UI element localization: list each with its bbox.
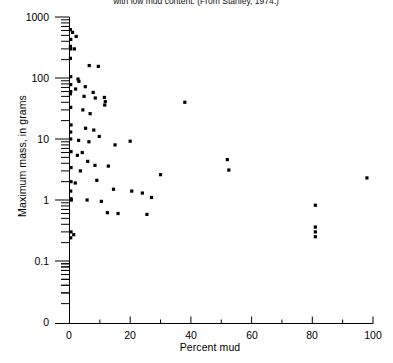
- data-point: [97, 65, 100, 68]
- data-point: [226, 158, 229, 161]
- data-point: [69, 230, 72, 233]
- data-point: [69, 180, 72, 183]
- data-point: [159, 173, 162, 176]
- plot-canvas: [0, 0, 393, 363]
- data-point: [72, 233, 75, 236]
- data-point: [69, 166, 72, 169]
- data-point: [89, 112, 92, 115]
- data-point: [69, 57, 72, 60]
- data-point: [106, 211, 109, 214]
- data-point: [103, 103, 106, 106]
- data-point: [69, 106, 72, 109]
- data-point-group: [69, 28, 369, 239]
- data-point: [86, 198, 89, 201]
- data-point: [92, 128, 95, 131]
- data-point: [75, 35, 78, 38]
- data-point: [81, 108, 84, 111]
- data-point: [130, 189, 133, 192]
- data-point: [94, 96, 97, 99]
- data-point: [88, 64, 91, 67]
- data-point: [69, 47, 72, 50]
- data-point: [69, 92, 72, 95]
- data-point: [77, 139, 80, 142]
- data-point: [183, 101, 186, 104]
- data-point: [71, 31, 74, 34]
- data-point: [107, 164, 110, 167]
- data-point: [104, 100, 107, 103]
- data-point: [77, 80, 80, 83]
- data-point: [150, 196, 153, 199]
- y-axis-ticks: [55, 17, 70, 324]
- data-point: [98, 135, 101, 138]
- data-point: [84, 85, 87, 88]
- data-point: [73, 47, 76, 50]
- data-point: [95, 179, 98, 182]
- data-point: [87, 140, 90, 143]
- data-point: [79, 169, 82, 172]
- data-point: [81, 151, 84, 154]
- data-point: [314, 230, 317, 233]
- data-point: [145, 213, 148, 216]
- data-point: [93, 164, 96, 167]
- data-point: [314, 204, 317, 207]
- data-point: [69, 75, 72, 78]
- axis-lines: [70, 17, 374, 324]
- data-point: [69, 150, 72, 153]
- data-point: [92, 91, 95, 94]
- figure-scatter-plot: with low mud content. (From Stanley, 197…: [0, 0, 393, 363]
- data-point: [70, 198, 73, 201]
- data-point: [74, 181, 77, 184]
- data-point: [129, 140, 132, 143]
- data-point: [69, 189, 72, 192]
- data-point: [69, 38, 72, 41]
- data-point: [76, 154, 79, 157]
- data-point: [227, 168, 230, 171]
- data-point: [365, 176, 368, 179]
- data-point: [86, 160, 89, 163]
- data-point: [84, 127, 87, 130]
- data-point: [103, 96, 106, 99]
- x-axis-ticks: [70, 317, 374, 324]
- data-point: [82, 95, 85, 98]
- data-point: [69, 123, 72, 126]
- data-point: [314, 225, 317, 228]
- data-point: [314, 235, 317, 238]
- data-point: [74, 87, 77, 90]
- data-point: [69, 83, 72, 86]
- data-point: [100, 200, 103, 203]
- data-point: [116, 212, 119, 215]
- data-point: [69, 236, 72, 239]
- data-point: [112, 188, 115, 191]
- data-point: [113, 143, 116, 146]
- data-point: [69, 137, 72, 140]
- data-point: [69, 130, 72, 133]
- data-point: [141, 191, 144, 194]
